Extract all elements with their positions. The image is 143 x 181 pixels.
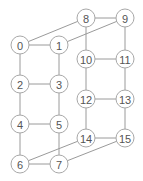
node-7: 7	[50, 155, 68, 173]
node-label: 9	[122, 13, 128, 25]
graph-diagram: 0123456789101112131415	[0, 0, 143, 181]
node-14: 14	[77, 129, 95, 147]
node-label: 7	[56, 159, 62, 171]
node-10: 10	[77, 50, 95, 68]
node-4: 4	[11, 115, 29, 133]
node-3: 3	[50, 75, 68, 93]
node-label: 13	[119, 94, 131, 106]
node-label: 4	[17, 119, 23, 131]
node-label: 8	[83, 13, 89, 25]
node-label: 3	[56, 79, 62, 91]
node-label: 5	[56, 119, 62, 131]
node-label: 0	[17, 40, 23, 52]
node-9: 9	[116, 9, 134, 27]
node-2: 2	[11, 75, 29, 93]
node-1: 1	[50, 36, 68, 54]
node-label: 6	[17, 159, 23, 171]
node-5: 5	[50, 115, 68, 133]
node-11: 11	[116, 50, 134, 68]
node-label: 11	[119, 54, 130, 66]
graph-canvas: 0123456789101112131415	[0, 0, 143, 181]
node-6: 6	[11, 155, 29, 173]
node-label: 1	[56, 40, 62, 52]
node-13: 13	[116, 90, 134, 108]
nodes-layer: 0123456789101112131415	[11, 9, 134, 173]
node-15: 15	[116, 129, 134, 147]
node-label: 15	[119, 133, 131, 145]
node-label: 12	[80, 94, 92, 106]
node-0: 0	[11, 36, 29, 54]
edges-layer	[20, 18, 125, 164]
node-label: 14	[80, 133, 92, 145]
node-label: 10	[80, 54, 92, 66]
node-label: 2	[17, 79, 23, 91]
node-8: 8	[77, 9, 95, 27]
node-12: 12	[77, 90, 95, 108]
